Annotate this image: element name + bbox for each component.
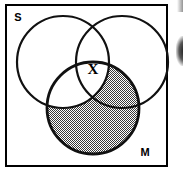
label-set-s: S <box>14 11 21 23</box>
x-mark: X <box>88 61 99 77</box>
label-set-m: M <box>140 146 149 158</box>
venn-diagram-figure: X S M <box>0 0 183 172</box>
venn-diagram-canvas: X S M <box>0 0 183 172</box>
x-mark-glyph: X <box>88 61 99 77</box>
